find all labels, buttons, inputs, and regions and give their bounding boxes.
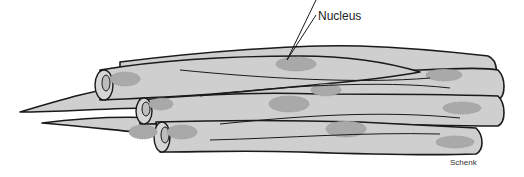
- cell-lumen: [161, 127, 169, 143]
- nucleus: [149, 98, 173, 110]
- muscle-cell-lower-front: [156, 121, 482, 155]
- cell-lumen: [102, 75, 110, 91]
- nucleus: [110, 72, 140, 86]
- nucleus: [167, 125, 197, 139]
- nucleus-label: Nucleus: [318, 9, 361, 23]
- nucleus: [436, 136, 474, 148]
- smooth-muscle-diagram: Nucleus Schenk: [0, 0, 524, 177]
- nucleus: [269, 96, 309, 112]
- nucleus: [443, 102, 481, 114]
- artist-credit: Schenk: [450, 158, 478, 167]
- nucleus: [426, 69, 462, 81]
- cell-lumen: [142, 102, 150, 116]
- nucleus: [129, 125, 157, 139]
- nucleus: [276, 57, 316, 71]
